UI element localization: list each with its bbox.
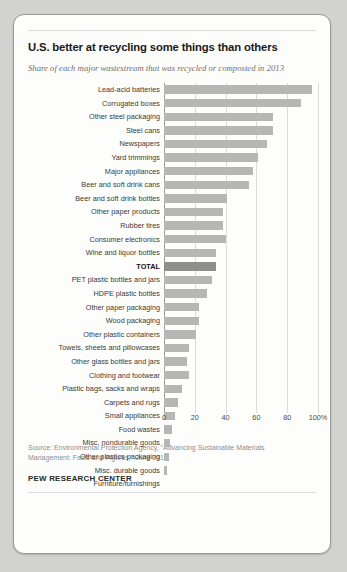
page-root: U.S. better at recycling some things tha… <box>0 0 347 572</box>
bar-row: Consumer electronics <box>164 232 318 246</box>
bar-label: Yard trimmings <box>111 154 160 161</box>
bar <box>164 153 258 161</box>
bar-label: Towels, sheets and pillowcases <box>59 344 160 351</box>
bar-row: Misc. durable goods <box>164 464 318 478</box>
bar-label: Consumer electronics <box>89 236 160 243</box>
bar-row: Newspapers <box>164 137 318 151</box>
bar <box>164 140 267 148</box>
bar-label: Carpets and rugs <box>104 399 160 406</box>
bar-row: Wood packaging <box>164 314 318 328</box>
bar-row: Corrugated boxes <box>164 96 318 110</box>
bar <box>164 398 178 406</box>
bottom-divider <box>28 492 316 493</box>
bar <box>164 194 227 202</box>
bar <box>164 371 189 379</box>
bar-label: TOTAL <box>136 263 160 270</box>
bar-label: Wood packaging <box>106 317 160 324</box>
bar <box>164 303 199 311</box>
x-tick-label: 100% <box>309 413 328 422</box>
bar-label: Clothing and footwear <box>89 372 160 379</box>
bar-label: Misc. durable goods <box>95 467 160 474</box>
bar <box>164 167 253 175</box>
bar-row: Other glass bottles and jars <box>164 355 318 369</box>
bar-label: Furniture/furnishings <box>93 480 160 487</box>
x-tick-label: 60 <box>252 413 260 422</box>
bar-chart: Lead-acid batteriesCorrugated boxesOther… <box>28 83 318 435</box>
bar-label: Major appliances <box>105 168 160 175</box>
bar-row: Major appliances <box>164 164 318 178</box>
bar <box>164 357 187 365</box>
bar-row: Towels, sheets and pillowcases <box>164 341 318 355</box>
bar-label: Misc. nondurable goods <box>83 439 160 446</box>
bar <box>164 235 226 243</box>
x-tick-label: 40 <box>222 413 230 422</box>
bar-label: Other paper products <box>91 208 160 215</box>
bar <box>164 330 196 338</box>
bar-row: Carpets and rugs <box>164 396 318 410</box>
bar-label: Newspapers <box>119 140 160 147</box>
page-subtitle: Share of each major wastestream that was… <box>28 62 316 74</box>
bar-row: Other paper products <box>164 205 318 219</box>
bar <box>164 276 212 284</box>
x-tick-label: 80 <box>283 413 291 422</box>
bar-row: Lead-acid batteries <box>164 83 318 97</box>
bar-row: Steel cans <box>164 124 318 138</box>
bar-row: Wine and liquor bottles <box>164 246 318 260</box>
bar <box>164 85 312 93</box>
bar-row: Clothing and footwear <box>164 368 318 382</box>
bar-row: Other plastic containers <box>164 328 318 342</box>
bar <box>164 317 199 325</box>
infographic-card: U.S. better at recycling some things tha… <box>13 14 331 554</box>
bar-label: PET plastic bottles and jars <box>72 276 160 283</box>
bar-row: Beer and soft drink bottles <box>164 192 318 206</box>
x-tick-label: 0 <box>162 413 166 422</box>
bar-label: Steel cans <box>126 127 160 134</box>
bar <box>164 181 249 189</box>
bar-row: Misc. nondurable goods <box>164 436 318 450</box>
bar <box>164 466 167 474</box>
bar <box>164 453 169 461</box>
bar-row: Other plastics packaging <box>164 450 318 464</box>
bar <box>164 344 189 352</box>
x-tick-label: 20 <box>191 413 199 422</box>
bar <box>164 439 170 447</box>
plot-area: Lead-acid batteriesCorrugated boxesOther… <box>164 83 318 413</box>
gridline-100 <box>318 83 319 413</box>
bar <box>164 289 207 297</box>
bar-row: Other steel packaging <box>164 110 318 124</box>
bar <box>164 221 223 229</box>
bar-row: Plastic bags, sacks and wraps <box>164 382 318 396</box>
top-divider <box>28 30 316 31</box>
bar <box>164 262 216 270</box>
bar-label: Lead-acid batteries <box>98 86 160 93</box>
bar <box>164 126 273 134</box>
bar-label: Other plastic containers <box>83 331 160 338</box>
bar <box>164 113 273 121</box>
bar-label: Small appliances <box>105 412 160 419</box>
bar-label: Beer and soft drink cans <box>81 181 160 188</box>
bar-row: HDPE plastic bottles <box>164 287 318 301</box>
bar-label: Other steel packaging <box>89 113 160 120</box>
bar-label: Corrugated boxes <box>102 100 160 107</box>
bar-rows: Lead-acid batteriesCorrugated boxesOther… <box>164 83 318 413</box>
bar-row: Beer and soft drink cans <box>164 178 318 192</box>
bar-label: Plastic bags, sacks and wraps <box>62 385 160 392</box>
page-title: U.S. better at recycling some things tha… <box>28 41 316 55</box>
x-axis: 020406080100% <box>164 413 318 435</box>
bar-label: HDPE plastic bottles <box>93 290 160 297</box>
bar-row: Furniture/furnishings <box>164 477 318 491</box>
bar-label: Other glass bottles and jars <box>71 358 160 365</box>
bar <box>164 385 182 393</box>
bar-row: PET plastic bottles and jars <box>164 273 318 287</box>
bar-row: TOTAL <box>164 260 318 274</box>
bar <box>164 99 301 107</box>
bar-row: Other paper packaging <box>164 300 318 314</box>
bar <box>164 249 216 257</box>
bar-label: Beer and soft drink bottles <box>75 195 160 202</box>
bar-row: Yard trimmings <box>164 151 318 165</box>
bar-row: Rubber tires <box>164 219 318 233</box>
bar-label: Rubber tires <box>120 222 160 229</box>
bar-label: Food wastes <box>119 426 160 433</box>
card-inner: U.S. better at recycling some things tha… <box>14 15 330 553</box>
bar-label: Other paper packaging <box>86 304 160 311</box>
